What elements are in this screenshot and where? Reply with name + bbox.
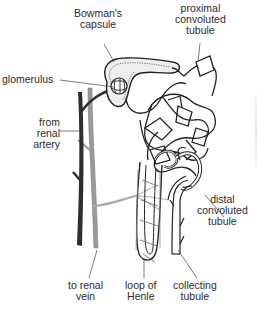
label-collecting-tubule: collecting tubule	[173, 280, 217, 302]
label-loop-of-henle: loop of Henle	[125, 280, 157, 302]
loop-of-henle	[136, 151, 177, 262]
renal-artery	[73, 84, 124, 246]
label-renal-vein: to renal vein	[68, 280, 103, 302]
scan-edge-shadow	[255, 95, 257, 165]
nephron-diagram	[0, 0, 257, 310]
glomerulus	[111, 78, 127, 94]
label-bowmans-capsule: Bowman's capsule	[74, 8, 122, 30]
label-proximal-convoluted-tubule: proximal convoluted tubule	[175, 3, 226, 36]
label-glomerulus: glomerulus	[2, 74, 53, 85]
label-distal-convoluted-tubule: distal convoluted tubule	[197, 194, 248, 227]
label-renal-artery: from renal artery	[28, 117, 60, 150]
